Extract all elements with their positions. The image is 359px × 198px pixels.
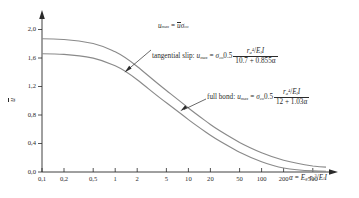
tangential-denominator: 10.7 + 0.855α bbox=[233, 56, 277, 65]
fullbond-fraction: ra4/ElI 12 + 1.03α bbox=[274, 89, 309, 106]
tangential-num-E-sub: l bbox=[260, 50, 261, 55]
fullbond-num-E-sub: l bbox=[297, 91, 298, 96]
x-axis-I: I bbox=[324, 175, 326, 182]
full-bond-label: full bond bbox=[207, 94, 233, 101]
tangential-equals: = bbox=[210, 53, 214, 60]
curve-full-bond bbox=[42, 54, 326, 172]
tangential-num-I: I bbox=[262, 47, 264, 55]
y-tick-marks bbox=[38, 30, 42, 173]
x-tick-label: 5 bbox=[156, 176, 176, 183]
y-tick-label: 2,0 bbox=[18, 26, 36, 33]
tangential-u-sub: max bbox=[200, 56, 207, 60]
x-tick-label: 100 bbox=[252, 176, 272, 183]
tangential-slip-label: tangential slip bbox=[152, 53, 193, 60]
fullbond-num-E: E bbox=[292, 88, 296, 96]
tangential-num-r-sup: 4 bbox=[252, 47, 254, 52]
fullbond-coefficient: 0.5 bbox=[264, 94, 273, 101]
y-tick-label: 1,6 bbox=[18, 55, 36, 62]
x-tick-label: 20 bbox=[200, 176, 220, 183]
fullbond-denominator: 12 + 1.03α bbox=[274, 97, 309, 106]
tangential-slip-colon: : bbox=[193, 53, 195, 60]
top-formula: umax = u σco bbox=[158, 22, 188, 30]
x-axis-r-a-sup: 3 bbox=[315, 174, 317, 178]
fullbond-u-sub: max bbox=[241, 97, 248, 101]
x-tick-label: 10 bbox=[178, 176, 198, 183]
annotation-full-bond: full bond : umax = σco 0.5 ra4/ElI 12 + … bbox=[207, 89, 310, 106]
x-axis-E-l-sub: l bbox=[323, 177, 324, 181]
top-formula-u-sub: max bbox=[162, 25, 169, 29]
fullbond-num-I: I bbox=[298, 88, 300, 96]
x-tick-label: 0,5 bbox=[83, 176, 103, 183]
tangential-numerator: ra4/ElI bbox=[245, 48, 266, 56]
x-tick-label: 0,2 bbox=[54, 176, 74, 183]
top-formula-equals: = bbox=[171, 23, 175, 30]
x-axis-E-g-sub: g bbox=[305, 177, 307, 181]
top-formula-sigma-sub: co bbox=[184, 25, 188, 29]
x-tick-label: 0,1 bbox=[32, 176, 52, 183]
x-axis-alpha: α bbox=[289, 175, 293, 182]
y-tick-label: 0,8 bbox=[18, 112, 36, 119]
x-tick-marks bbox=[42, 168, 313, 172]
fullbond-equals: = bbox=[250, 94, 254, 101]
tangential-coefficient: 0.5 bbox=[223, 53, 232, 60]
leader-tangential-slip bbox=[125, 50, 152, 73]
x-tick-label: 1 bbox=[105, 176, 125, 183]
fullbond-sigma-sub: co bbox=[260, 97, 264, 101]
x-axis-arrowhead bbox=[329, 169, 338, 175]
chart-figure: 0,0 0,4 0,8 1,2 1,6 2,0 0,1 0,2 0,5 1 2 … bbox=[0, 0, 359, 198]
y-tick-label: 0,4 bbox=[18, 140, 36, 147]
x-axis-equals: = bbox=[295, 175, 299, 182]
annotation-tangential-slip: tangential slip : umax = σco 0.5 ra4/ElI… bbox=[152, 48, 279, 65]
x-tick-label: 50 bbox=[230, 176, 250, 183]
fullbond-num-r-sup: 4 bbox=[288, 88, 290, 93]
full-bond-colon: : bbox=[233, 94, 235, 101]
tangential-fraction: ra4/ElI 10.7 + 0.855α bbox=[233, 48, 277, 65]
y-axis-title-text: u bbox=[8, 98, 17, 102]
y-axis-title: u bbox=[3, 88, 21, 112]
fullbond-numerator: ra4/ElI bbox=[281, 89, 302, 97]
x-axis-title: α = Eg ra3 / El I bbox=[289, 175, 327, 182]
x-tick-label: 2 bbox=[127, 176, 147, 183]
y-tick-label: 0,0 bbox=[18, 169, 36, 176]
tangential-sigma-sub: co bbox=[219, 56, 223, 60]
y-axis-arrowhead bbox=[39, 10, 45, 19]
